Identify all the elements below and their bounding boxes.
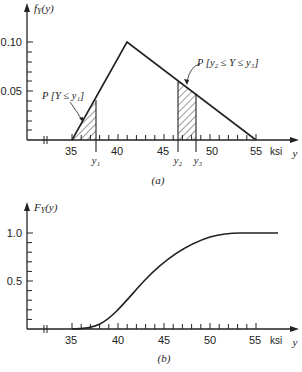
x-tick-label-40: 40 [112, 334, 124, 346]
x-tick-label-50: 50 [204, 334, 216, 346]
y-axis-arrow-icon [24, 202, 30, 211]
y-tick-label-0-5: 0.5 [7, 275, 22, 287]
x-tick-label-35: 35 [65, 334, 77, 346]
x-unit-label: ksi [270, 335, 282, 346]
x-axis-title: y [292, 147, 298, 159]
x-tick-label-55: 55 [250, 145, 262, 157]
x-tick-label-50: 50 [206, 145, 218, 157]
y-tick-label-0-10: 0.10 [1, 36, 22, 48]
y-axis-title: fY(y) [34, 2, 54, 16]
x-tick-label-45: 45 [157, 145, 169, 157]
shaded-region-p-y2-le-y-le-y3 [178, 82, 196, 140]
x-axis-arrow-icon [290, 137, 299, 143]
annotation-p-y-le-y1: P [Y ≤ y₁] [41, 90, 84, 101]
y-axis-title: FY(y) [33, 201, 58, 215]
figure: fY(y) 0.10 0.05 35 40 45 50 55 ksi y P [… [0, 0, 302, 372]
x-ticks [72, 134, 256, 140]
y-ticks [27, 233, 33, 319]
y-tick-label-1-0: 1.0 [7, 227, 22, 239]
cdf-curve [72, 233, 278, 329]
x-axis-title: y [292, 336, 298, 348]
y3-label: y₃ [193, 155, 203, 166]
y-tick-label-0-05: 0.05 [1, 85, 22, 97]
y-ticks [27, 42, 33, 130]
panel-label-b: (b) [158, 352, 171, 365]
panel-b-cdf-chart: FY(y) 1.0 0.5 35 40 45 50 55 ksi y (b) [7, 201, 299, 365]
y1-label: y₁ [91, 155, 100, 166]
panel-a-pdf-chart: fY(y) 0.10 0.05 35 40 45 50 55 ksi y P [… [1, 2, 299, 187]
x-tick-label-35: 35 [65, 145, 77, 157]
annotation-arrow-1-icon [79, 117, 83, 122]
x-unit-label: ksi [270, 146, 282, 157]
x-tick-label-55: 55 [249, 334, 261, 346]
x-tick-label-45: 45 [158, 334, 170, 346]
annotation-leader-1 [70, 102, 82, 120]
y-axis-arrow-icon [24, 3, 30, 12]
y2-label: y₂ [173, 155, 183, 166]
panel-label-a: (a) [152, 174, 165, 187]
annotation-arrow-2-icon [184, 79, 189, 85]
x-axis-arrow-icon [290, 326, 299, 332]
x-tick-label-40: 40 [111, 145, 123, 157]
annotation-p-y2-le-y-le-y3: P [y₂ ≤ Y ≤ y₃] [196, 57, 259, 68]
